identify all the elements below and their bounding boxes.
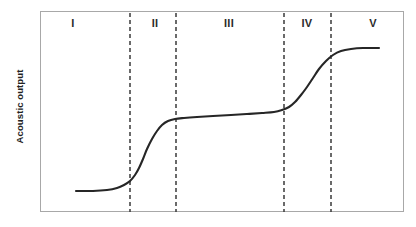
acoustic-output-chart: Acoustic output IIIIIIIVV bbox=[0, 0, 416, 227]
region-label-i: I bbox=[71, 17, 74, 29]
y-axis-label: Acoustic output bbox=[15, 69, 26, 143]
plot-svg bbox=[41, 12, 405, 213]
data-series-group bbox=[76, 48, 379, 191]
plot-area-frame bbox=[40, 11, 404, 212]
region-label-ii: II bbox=[152, 17, 159, 29]
y-axis-label-container: Acoustic output bbox=[0, 0, 40, 212]
region-label-iii: III bbox=[224, 17, 234, 29]
region-divider-group bbox=[130, 13, 331, 212]
region-label-iv: IV bbox=[302, 17, 313, 29]
region-label-v: V bbox=[369, 17, 377, 29]
acoustic-output-curve bbox=[76, 48, 379, 191]
